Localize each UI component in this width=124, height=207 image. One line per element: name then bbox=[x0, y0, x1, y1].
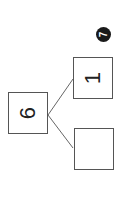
part-value-1: 1 bbox=[80, 72, 106, 84]
whole-value: 6 bbox=[15, 107, 41, 119]
part-box-1[interactable]: 1 bbox=[73, 57, 113, 99]
whole-box: 6 bbox=[8, 92, 48, 134]
part-box-2-empty[interactable] bbox=[74, 128, 114, 170]
problem-number-badge: 7 bbox=[96, 27, 111, 42]
